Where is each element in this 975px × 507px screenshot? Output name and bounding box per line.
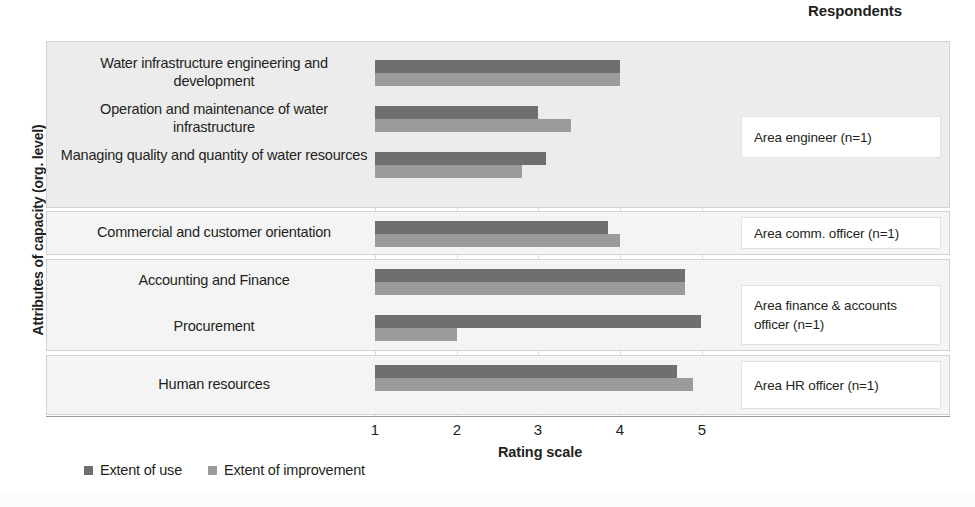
- bar-improvement-4: [375, 282, 685, 295]
- category-label-water-infrastructure: Water infrastructure engineering and dev…: [59, 55, 369, 90]
- chart-legend: Extent of use Extent of improvement: [84, 462, 365, 478]
- bar-use-3: [375, 221, 608, 234]
- category-label-operation-maintenance: Operation and maintenance of water infra…: [59, 101, 369, 136]
- respondent-box-area-comm-officer: Area comm. officer (n=1): [741, 217, 941, 249]
- x-tick-5: 5: [682, 421, 722, 438]
- bar-improvement-5: [375, 328, 457, 341]
- legend-label-extent-of-improvement: Extent of improvement: [224, 462, 365, 478]
- x-tick-4: 4: [600, 421, 640, 438]
- bar-improvement-3: [375, 234, 620, 247]
- category-label-accounting-finance: Accounting and Finance: [59, 272, 369, 290]
- x-axis-title: Rating scale: [375, 444, 705, 460]
- category-label-human-resources: Human resources: [59, 376, 369, 394]
- legend-item-extent-of-use: Extent of use: [84, 462, 182, 478]
- category-label-managing-quality: Managing quality and quantity of water r…: [59, 147, 369, 165]
- respondent-box-area-hr-officer: Area HR officer (n=1): [741, 361, 941, 409]
- y-axis-title: Attributes of capacity (org. level): [30, 40, 46, 420]
- respondents-header: Respondents: [760, 2, 950, 19]
- bar-use-6: [375, 365, 677, 378]
- bar-improvement-2: [375, 165, 522, 178]
- respondent-box-area-finance-officer: Area finance & accounts officer (n=1): [741, 285, 941, 345]
- legend-label-extent-of-use: Extent of use: [100, 462, 182, 478]
- legend-swatch-icon-use: [84, 466, 93, 475]
- legend-swatch-icon-improvement: [208, 466, 217, 475]
- bar-use-2: [375, 152, 546, 165]
- x-tick-3: 3: [518, 421, 558, 438]
- category-label-procurement: Procurement: [59, 318, 369, 336]
- scan-artifact-strip: [0, 492, 975, 507]
- x-axis-baseline: [46, 416, 950, 417]
- bar-use-5: [375, 315, 701, 328]
- bar-use-0: [375, 60, 620, 73]
- bar-improvement-1: [375, 119, 571, 132]
- bar-improvement-6: [375, 378, 693, 391]
- category-label-commercial-customer: Commercial and customer orientation: [59, 224, 369, 242]
- bar-use-1: [375, 106, 538, 119]
- respondent-box-area-engineer: Area engineer (n=1): [741, 116, 941, 158]
- x-tick-2: 2: [437, 421, 477, 438]
- bar-use-4: [375, 269, 685, 282]
- x-tick-1: 1: [355, 421, 395, 438]
- chart-plot-area: Water infrastructure engineering and dev…: [46, 41, 950, 416]
- legend-item-extent-of-improvement: Extent of improvement: [208, 462, 365, 478]
- bar-improvement-0: [375, 73, 620, 86]
